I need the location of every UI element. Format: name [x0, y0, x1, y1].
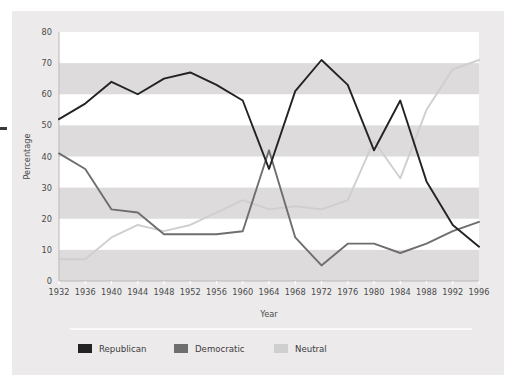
x-tick-label: 1980: [364, 287, 385, 297]
page-edge-mark: [0, 127, 7, 130]
legend-item-republican[interactable]: Republican: [78, 344, 146, 354]
x-tick-label: 1956: [206, 287, 227, 297]
legend[interactable]: RepublicanDemocraticNeutral: [78, 344, 327, 354]
legend-swatch: [274, 344, 288, 353]
x-tick-label: 1944: [127, 287, 148, 297]
legend-label: Neutral: [295, 344, 327, 354]
legend-item-democratic[interactable]: Democratic: [174, 344, 245, 354]
x-tick-label: 1932: [49, 287, 70, 297]
y-tick-label: 50: [42, 120, 52, 130]
figure-container: 01020304050607080 1932193619401944194819…: [0, 0, 516, 383]
y-tick-label: 10: [42, 245, 52, 255]
legend-label: Republican: [99, 344, 146, 354]
x-tick-label: 1992: [442, 287, 463, 297]
y-tick-label: 0: [47, 276, 52, 286]
x-tick-label: 1960: [232, 287, 253, 297]
legend-item-neutral[interactable]: Neutral: [274, 344, 327, 354]
x-tick-label: 1968: [285, 287, 306, 297]
y-tick-label: 60: [42, 89, 52, 99]
x-tick-label: 1996: [469, 287, 490, 297]
plot-background-bands: [59, 32, 479, 281]
x-tick-label: 1972: [311, 287, 332, 297]
x-axis-tick-labels: 1932193619401944194819521956196019641968…: [49, 281, 490, 297]
y-tick-label: 30: [42, 183, 52, 193]
y-tick-label: 20: [42, 214, 52, 224]
legend-swatch: [78, 344, 92, 353]
x-tick-label: 1948: [154, 287, 175, 297]
x-tick-label: 1984: [390, 287, 411, 297]
legend-swatch: [174, 344, 188, 353]
y-tick-label: 80: [42, 27, 52, 37]
x-tick-label: 1952: [180, 287, 201, 297]
x-tick-label: 1988: [416, 287, 437, 297]
x-tick-label: 1936: [75, 287, 96, 297]
y-axis-title: Percentage: [22, 133, 32, 179]
x-axis-title: Year: [259, 309, 278, 319]
legend-label: Democratic: [195, 344, 245, 354]
x-tick-label: 1976: [337, 287, 358, 297]
x-tick-label: 1964: [259, 287, 280, 297]
y-tick-label: 40: [42, 152, 52, 162]
line-chart[interactable]: 01020304050607080 1932193619401944194819…: [12, 11, 504, 375]
y-tick-label: 70: [42, 58, 52, 68]
y-axis-tick-labels: 01020304050607080: [42, 27, 52, 286]
x-tick-label: 1940: [101, 287, 122, 297]
